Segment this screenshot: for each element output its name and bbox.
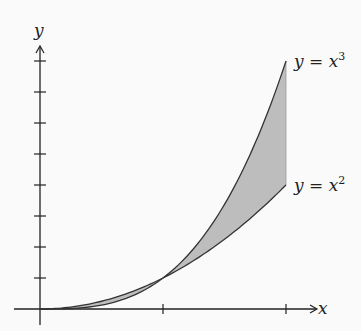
x-axis-label: x <box>318 298 328 318</box>
legend-square-label: y = x2 <box>294 174 345 195</box>
legend-cubic-label: y = x3 <box>294 50 345 71</box>
chart-figure: y x y = x3 y = x2 <box>0 0 361 331</box>
shaded-region <box>40 61 286 309</box>
y-axis-label: y <box>34 20 44 40</box>
